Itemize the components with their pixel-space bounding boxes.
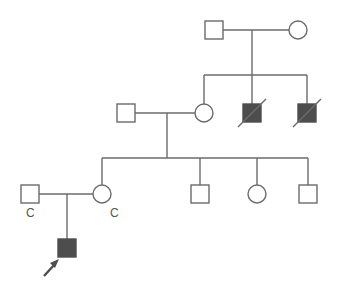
gen3-female-carrier <box>93 185 111 203</box>
gen1-female <box>289 21 307 39</box>
pedigree-chart: C C <box>0 0 341 294</box>
gen3-male3 <box>299 185 317 203</box>
gen2-male-spouse <box>117 104 135 122</box>
carrier-label-mother: C <box>110 206 119 220</box>
arrow-icon <box>44 259 59 276</box>
gen1-male <box>205 21 223 39</box>
gen3-female2 <box>248 185 266 203</box>
gen3-male-spouse <box>21 185 39 203</box>
proband-affected-male <box>58 239 76 257</box>
gen3-male2 <box>191 185 209 203</box>
carrier-label-father: C <box>26 206 35 220</box>
gen2-female <box>195 104 213 122</box>
